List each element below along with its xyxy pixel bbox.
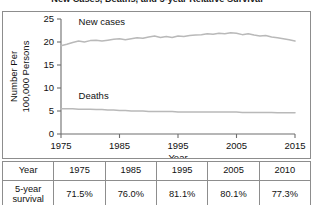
y-tick-label: 20 <box>43 36 54 47</box>
table-header-cell: 1975 <box>54 162 105 181</box>
table-row: 5-year survival 71.5% 76.0% 81.1% 80.1% … <box>3 181 311 206</box>
table-cell: 81.1% <box>156 181 207 206</box>
chart-panel: 0510152025 19751985199520052015 New case… <box>2 11 311 159</box>
figure-title: New Cases, Deaths, and 5-year Relative S… <box>0 0 314 5</box>
x-tick-label: 2005 <box>226 140 247 151</box>
table-header-row: Year 1975 1985 1995 2005 2010 <box>3 162 311 181</box>
series-label: Deaths <box>79 90 109 101</box>
series-label: New cases <box>79 16 126 27</box>
y-tick-label: 5 <box>49 105 54 116</box>
y-tick-label: 15 <box>43 59 54 70</box>
table-header-cell: 1985 <box>105 162 156 181</box>
x-tick-label: 2015 <box>284 140 305 151</box>
x-axis-title: Year <box>168 152 187 158</box>
x-axis-ticks <box>61 134 295 138</box>
table-row-label: 5-year survival <box>3 181 54 206</box>
x-tick-label: 1995 <box>167 140 188 151</box>
table-header-cell: 2010 <box>259 162 310 181</box>
table-cell: 80.1% <box>208 181 259 206</box>
x-tick-label: 1985 <box>109 140 130 151</box>
table-header-cell: Year <box>3 162 54 181</box>
table-cell: 76.0% <box>105 181 156 206</box>
table-header-cell: 1995 <box>156 162 207 181</box>
table-cell: 77.3% <box>259 181 310 206</box>
y-tick-label: 0 <box>49 128 54 139</box>
x-axis-tick-labels: 19751985199520052015 <box>50 140 305 151</box>
x-tick-label: 1975 <box>50 140 71 151</box>
series-annotations: New casesDeaths <box>79 16 126 101</box>
series-line <box>61 109 295 113</box>
series-line <box>61 33 295 46</box>
y-axis-ticks <box>57 19 61 134</box>
row-label-line2: survival <box>12 194 44 204</box>
row-label-line1: 5-year <box>15 184 41 194</box>
y-axis-title-line2: 100,000 Persons <box>20 40 31 112</box>
survival-data-table: Year 1975 1985 1995 2005 2010 5-year sur… <box>2 161 311 205</box>
table-header-cell: 2005 <box>208 162 259 181</box>
y-axis-tick-labels: 0510152025 <box>43 13 54 139</box>
y-axis-title-line1: Number Per <box>8 51 19 102</box>
line-chart: 0510152025 19751985199520052015 New case… <box>3 12 310 158</box>
y-tick-label: 10 <box>43 82 54 93</box>
table-cell: 71.5% <box>54 181 105 206</box>
y-tick-label: 25 <box>43 13 54 24</box>
